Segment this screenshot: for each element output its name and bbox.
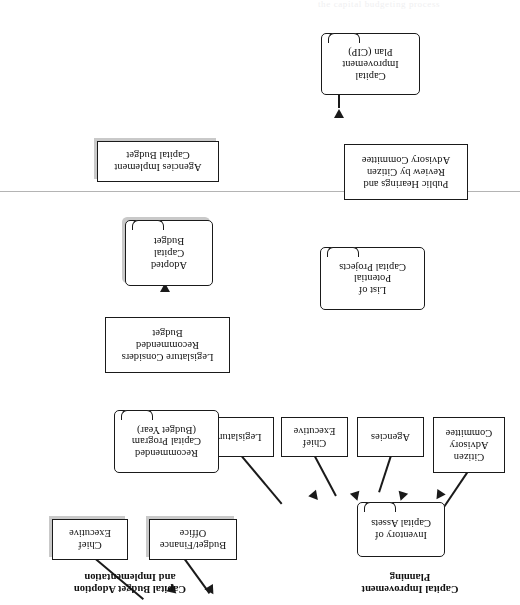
edge-chief-executive-to-list — [314, 456, 337, 496]
node-label: Recommended Capital Program (Budget Year… — [132, 424, 201, 459]
section-caption-capital-improvement-planning: Capital Improvement Planning — [320, 570, 500, 595]
node-agencies: Agencies — [357, 417, 424, 457]
section-caption-capital-budget-adoption: Capital Budget Adoption and Implementati… — [30, 570, 230, 595]
node-label: Chief Executive — [294, 425, 336, 449]
edge-agencies-to-list — [378, 456, 391, 493]
node-agencies-implement-capital-budget: Agencies Implement Capital Budget — [97, 141, 219, 182]
node-label: Citizen Advisory Committee — [446, 427, 493, 462]
arrowhead-citizen-advisory-to-list — [432, 489, 445, 502]
node-label: Capital Improvement Plan (CIP) — [342, 46, 399, 81]
arrowhead-legislature-to-list — [308, 490, 321, 503]
node-label: Legislature Considers Recommended Budget — [122, 327, 214, 362]
node-inventory-of-capital-assets: Inventory of Capital Assets — [357, 502, 445, 557]
node-label: Adopted Capital Budget — [151, 235, 187, 270]
node-adopted-capital-budget: Adopted Capital Budget — [125, 220, 213, 286]
node-chief-executive-planning: Chief Executive — [281, 417, 348, 457]
figure-page: the capital budgeting process Capital Im… — [0, 0, 520, 605]
node-label: List of Potential Capital Projects — [339, 261, 406, 296]
rotated-figure-canvas: Capital Improvement Planning Inventory o… — [0, 0, 520, 605]
arrowhead-agencies-to-list — [396, 491, 408, 503]
node-label: Budget/Finance Office — [160, 528, 227, 552]
node-legislature-considers-budget: Legislature Considers Recommended Budget — [105, 317, 230, 373]
node-label: Public Hearings and Review by Citizen Ad… — [362, 154, 450, 189]
node-label: Agencies Implement Capital Budget — [114, 150, 201, 174]
node-chief-executive-adoption: Chief Executive — [52, 519, 128, 560]
node-budget-finance-office: Budget/Finance Office — [149, 519, 237, 560]
arrowhead-public-hearings-to-cip — [334, 109, 344, 118]
node-list-of-potential-capital-projects: List of Potential Capital Projects — [320, 247, 425, 310]
node-citizen-advisory-committee: Citizen Advisory Committee — [433, 417, 505, 473]
node-label: Inventory of Capital Assets — [371, 518, 431, 542]
node-capital-improvement-plan: Capital Improvement Plan (CIP) — [321, 33, 420, 95]
node-label: Chief Executive — [69, 528, 111, 552]
edge-legislature-to-list — [241, 456, 282, 505]
arrowhead-chief-executive-to-list — [350, 491, 362, 503]
node-label: Legislature — [214, 431, 261, 443]
node-public-hearings-and-review: Public Hearings and Review by Citizen Ad… — [344, 144, 468, 200]
node-recommended-capital-program: Recommended Capital Program (Budget Year… — [114, 410, 219, 473]
node-label: Agencies — [371, 431, 410, 443]
